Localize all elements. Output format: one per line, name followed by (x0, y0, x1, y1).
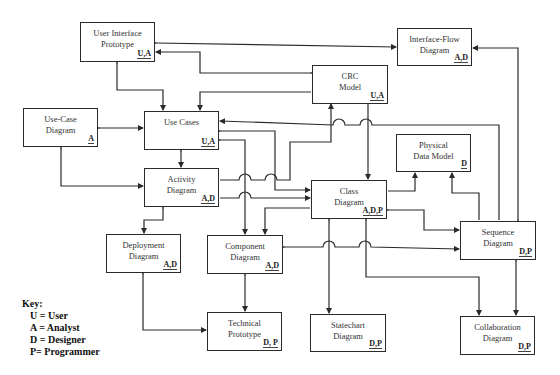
node-title: Interface-Flow Diagram (398, 34, 471, 55)
node-title: Class Diagram (312, 186, 386, 207)
node-title: Statechart Diagram (311, 320, 385, 341)
artifact-flow-diagram: User Interface Prototype U,A Interface-F… (0, 0, 560, 375)
node-roles: A,D,P (363, 206, 383, 216)
node-collaboration-diagram[interactable]: Collaboration Diagram D,P (460, 316, 535, 355)
node-title: Physical Data Model (397, 140, 470, 161)
node-roles: U,A (201, 137, 215, 147)
node-crc-model[interactable]: CRC Model U,A (312, 65, 388, 104)
node-technical-prototype[interactable]: Technical Prototype D, P (207, 312, 282, 351)
node-title: Deployment Diagram (107, 240, 180, 261)
node-title: Technical Prototype (208, 318, 281, 339)
node-title: CRC Model (313, 71, 387, 92)
legend-title: Key: (22, 298, 100, 310)
node-use-case-diagram[interactable]: Use-Case Diagram A (23, 108, 98, 147)
node-title: Use Cases (145, 117, 218, 128)
node-title: Component Diagram (208, 241, 282, 262)
node-roles: U,A (370, 91, 384, 101)
legend-item-user: U = User (22, 310, 100, 322)
node-title: Use-Case Diagram (24, 114, 97, 135)
node-statechart-diagram[interactable]: Statechart Diagram D,P (310, 314, 386, 352)
node-roles: A,D (265, 261, 279, 271)
node-physical-data-model[interactable]: Physical Data Model D (396, 134, 471, 172)
node-roles: D, P (263, 338, 278, 348)
node-title: Activity Diagram (145, 174, 218, 195)
node-sequence-diagram[interactable]: Sequence Diagram D,P (460, 221, 536, 260)
node-roles: A,D (454, 53, 468, 63)
node-title: Sequence Diagram (461, 227, 535, 248)
node-ui-prototype[interactable]: User Interface Prototype U,A (80, 22, 155, 62)
legend-item-programmer: P= Programmer (22, 346, 100, 358)
node-interface-flow[interactable]: Interface-Flow Diagram A,D (397, 28, 472, 66)
node-use-cases[interactable]: Use Cases U,A (144, 111, 219, 150)
node-title: Collaboration Diagram (461, 322, 534, 343)
node-roles: A (88, 134, 94, 144)
legend-item-designer: D = Designer (22, 334, 100, 346)
node-roles: U,A (137, 49, 151, 59)
node-title: User Interface Prototype (81, 28, 154, 49)
node-roles: D,P (519, 247, 532, 257)
legend-item-analyst: A = Analyst (22, 322, 100, 334)
node-roles: D,P (369, 339, 382, 349)
legend-key: Key: U = User A = Analyst D = Designer P… (22, 298, 100, 358)
node-deployment-diagram[interactable]: Deployment Diagram A,D (106, 234, 181, 273)
node-roles: D (461, 159, 467, 169)
node-class-diagram[interactable]: Class Diagram A,D,P (311, 180, 387, 219)
node-component-diagram[interactable]: Component Diagram A,D (207, 235, 283, 274)
node-roles: A,D (201, 194, 215, 204)
node-roles: D,P (518, 342, 531, 352)
node-roles: A,D (163, 260, 177, 270)
node-activity-diagram[interactable]: Activity Diagram A,D (144, 168, 219, 207)
